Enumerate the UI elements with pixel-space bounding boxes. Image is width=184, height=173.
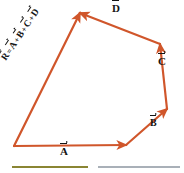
footer-rule-right bbox=[98, 166, 180, 168]
vector-diagram: D C B A R=A+B+C+D bbox=[0, 0, 184, 173]
vector-b-line bbox=[126, 109, 167, 145]
vector-b-label: B bbox=[150, 118, 157, 128]
vector-c-line bbox=[160, 44, 167, 109]
footer-rule-left bbox=[12, 166, 88, 168]
vector-a-label-text: A bbox=[60, 146, 68, 157]
vector-c-label: C bbox=[158, 56, 166, 67]
vector-d-label: D bbox=[112, 3, 120, 14]
vector-d-line bbox=[80, 13, 160, 44]
vector-b-label-text: B bbox=[150, 118, 157, 128]
footer-rules bbox=[0, 163, 184, 173]
vector-a-line bbox=[14, 145, 126, 146]
vector-d-label-text: D bbox=[112, 3, 120, 14]
vector-c-label-text: C bbox=[158, 56, 166, 67]
vector-a-label: A bbox=[60, 146, 68, 157]
